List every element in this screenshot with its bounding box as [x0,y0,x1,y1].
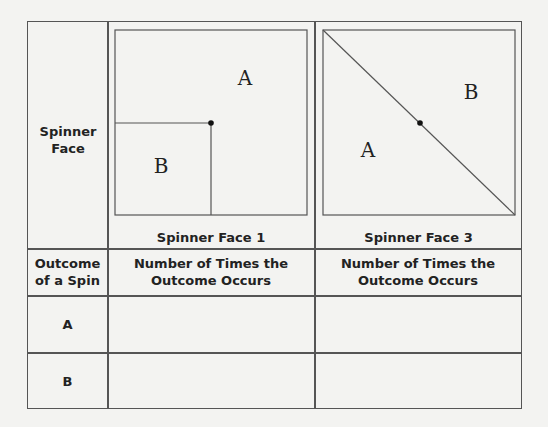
spinner-face-row-label: Spinner Face [40,120,96,160]
outcome-column-header: Outcome of a Spin [28,249,107,295]
region-label-b: B [456,80,486,104]
region-label-a: A [230,66,260,90]
spinner-face-1-diagram [114,28,308,218]
outcome-a: A [28,296,107,352]
region-label-b: B [146,154,176,178]
outcome-b: B [28,353,107,409]
spinner-face-3-label: Spinner Face 3 [315,226,522,248]
face1-count-header: Number of Times the Outcome Occurs [130,249,292,295]
face3-count-header: Number of Times the Outcome Occurs [337,249,499,295]
face1-count-b[interactable] [108,353,314,409]
spinner-face-3-diagram [322,28,516,218]
spinner-face-1-label: Spinner Face 1 [108,226,314,248]
region-label-a: A [353,138,383,162]
face3-count-b[interactable] [315,353,522,409]
face3-count-a[interactable] [315,296,522,352]
face1-count-a[interactable] [108,296,314,352]
